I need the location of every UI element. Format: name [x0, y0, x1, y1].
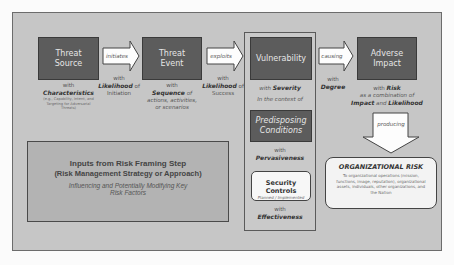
arrow-label: exploits [206, 40, 236, 72]
causing-caption: with Degree [313, 76, 353, 91]
caption-text: actions, activities, [147, 97, 197, 103]
threat-event-box: Threat Event [142, 37, 202, 80]
caption-text: with [259, 85, 272, 91]
caption-bold: Sequence [152, 89, 185, 96]
org-risk-title: ORGANIZATIONAL RISK [326, 163, 436, 171]
caption-text: or scenarios [155, 104, 189, 110]
caption-text: and [374, 100, 388, 106]
inputs-title: Inputs from Risk Framing Step [28, 159, 228, 168]
caption-note: Threats) [30, 106, 107, 111]
caption-bold: Likelihood [98, 82, 133, 89]
exploits-arrow: exploits [206, 40, 244, 72]
inputs-description: Influencing and Potentially Modifying Ke… [28, 182, 228, 189]
vulnerability-box: Vulnerability [250, 37, 312, 80]
predisposing-caption: with Pervasiveness [246, 147, 314, 162]
caption-text: of [237, 83, 244, 89]
caption-text: with [313, 76, 353, 83]
caption-bold: Likelihood [202, 82, 237, 89]
inputs-description: Risk Factors [28, 189, 228, 196]
node-label: Event [161, 59, 184, 69]
caption-text: Success [198, 90, 248, 97]
node-label: Adverse [371, 49, 403, 59]
causing-arrow: causing [318, 40, 354, 72]
vulnerability-caption: with Severity In the context of [246, 84, 314, 103]
caption-bold: Impact [351, 99, 374, 106]
node-label: Conditions [260, 126, 302, 136]
node-label: Impact [373, 59, 401, 69]
arrow-label: causing [318, 40, 346, 72]
adverse-impact-caption: with Risk as a combination of Impact and… [348, 84, 426, 107]
arrow-label: producing [362, 112, 420, 136]
caption-text: with [373, 85, 386, 91]
caption-text: with [246, 206, 314, 213]
inputs-subtitle: (Risk Management Strategy or Approach) [28, 169, 228, 178]
org-risk-text: the Nation [326, 190, 436, 196]
caption-text: with [94, 75, 144, 82]
caption-bold: Risk [387, 84, 401, 91]
adverse-impact-box: Adverse Impact [357, 37, 417, 80]
node-label: Vulnerability [256, 54, 306, 64]
threat-source-box: Threat Source [38, 37, 99, 80]
caption-text: with [198, 75, 248, 82]
node-label: Threat [159, 49, 185, 59]
caption-bold: Degree [321, 83, 345, 90]
node-label: Source [55, 59, 82, 69]
initiates-arrow: initiates [102, 40, 140, 72]
caption-text: of [185, 90, 192, 96]
producing-arrow: producing [362, 112, 420, 154]
node-label: Threat [55, 49, 81, 59]
caption-text: as a combination of [360, 92, 414, 98]
caption-bold: Effectiveness [257, 213, 302, 220]
security-controls-caption: with Effectiveness [246, 206, 314, 221]
inputs-from-risk-framing-box: Inputs from Risk Framing Step (Risk Mana… [27, 141, 229, 222]
caption-bold: Characteristics [43, 89, 94, 96]
predisposing-conditions-box: Predisposing Conditions [250, 110, 312, 142]
node-label: Predisposing [255, 116, 306, 126]
caption-bold: Likelihood [388, 99, 423, 106]
organizational-risk-box: ORGANIZATIONAL RISK To organizational op… [325, 157, 437, 209]
security-controls-subtitle: Planned / Implemented [252, 195, 310, 200]
arrow-label: initiates [102, 40, 132, 72]
security-controls-title: Security Controls [252, 179, 310, 195]
caption-bold: Pervasiveness [256, 154, 304, 161]
security-controls-box: Security Controls Planned / Implemented [251, 171, 311, 201]
caption-bold: Severity [273, 84, 301, 91]
caption-text: with [246, 147, 314, 154]
org-risk-text: assets, individuals, other organizations… [326, 184, 436, 190]
exploits-caption: with Likelihood of Success [198, 75, 248, 97]
caption-text: In the context of [257, 96, 303, 102]
